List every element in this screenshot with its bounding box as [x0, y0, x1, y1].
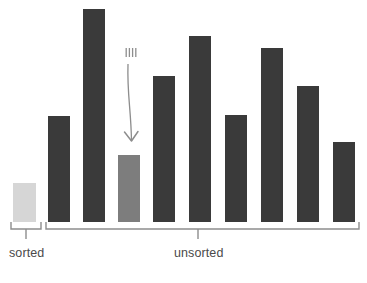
group-brackets	[0, 0, 367, 283]
bracket-sorted	[11, 222, 41, 229]
bracket-unsorted	[46, 222, 359, 229]
sorting-diagram: sorted unsorted	[0, 0, 367, 283]
group-label-sorted: sorted	[9, 246, 44, 260]
group-label-unsorted: unsorted	[174, 246, 223, 260]
